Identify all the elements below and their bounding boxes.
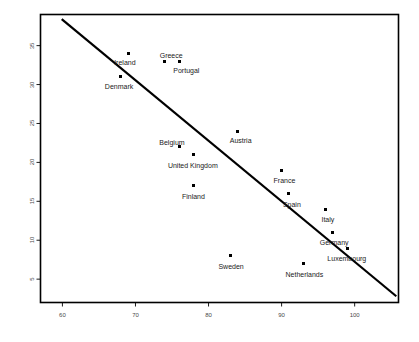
data-point-label: Austria (230, 137, 252, 144)
data-point-label: United Kingdom (168, 162, 218, 169)
data-point-label: Luxembourg (327, 255, 366, 262)
data-point-label: Greece (160, 52, 183, 59)
x-tick-label: 60 (56, 312, 68, 318)
data-point-marker (324, 208, 327, 211)
data-point-label: Germany (320, 239, 349, 246)
data-point-label: Denmark (105, 83, 133, 90)
data-point-marker (119, 75, 122, 78)
y-tick-label: 20 (29, 155, 35, 169)
data-point-label: Spain (283, 201, 301, 208)
x-tick-label: 100 (349, 312, 361, 318)
y-tick-label: 35 (29, 39, 35, 53)
data-point-marker (192, 184, 195, 187)
y-tick-label: 25 (29, 116, 35, 130)
x-tick-label: 70 (129, 312, 141, 318)
y-tick-label: 5 (29, 272, 35, 286)
data-point-marker (287, 192, 290, 195)
data-point-label: Ireland (114, 59, 135, 66)
x-tick-label: 80 (203, 312, 215, 318)
plot-canvas (0, 0, 419, 342)
data-point-marker (331, 231, 334, 234)
data-point-label: Netherlands (286, 271, 324, 278)
y-tick-label: 15 (29, 194, 35, 208)
data-point-marker (236, 130, 239, 133)
data-point-label: Italy (321, 216, 334, 223)
scatter-plot-figure: IrelandDenmarkGreecePortugalAustriaBelgi… (0, 0, 419, 342)
data-point-label: Portugal (173, 67, 199, 74)
data-point-marker (192, 153, 195, 156)
data-point-marker (280, 169, 283, 172)
y-tick-label: 30 (29, 78, 35, 92)
data-point-label: France (274, 177, 296, 184)
data-point-label: Sweden (218, 263, 243, 270)
data-point-marker (127, 52, 130, 55)
data-point-marker (229, 254, 232, 257)
x-tick-label: 90 (276, 312, 288, 318)
data-point-marker (302, 262, 305, 265)
data-point-marker (346, 247, 349, 250)
y-tick-label: 10 (29, 233, 35, 247)
data-point-label: Finland (182, 193, 205, 200)
data-point-marker (163, 60, 166, 63)
data-point-marker (178, 60, 181, 63)
data-point-label: Belgium (159, 139, 184, 146)
axis-tick-marks (37, 46, 355, 307)
